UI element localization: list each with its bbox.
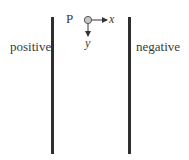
particle-circle-icon xyxy=(84,16,91,23)
x-axis-label: x xyxy=(109,13,114,25)
y-axis-label: y xyxy=(85,37,90,49)
particle-and-axes xyxy=(0,0,189,160)
